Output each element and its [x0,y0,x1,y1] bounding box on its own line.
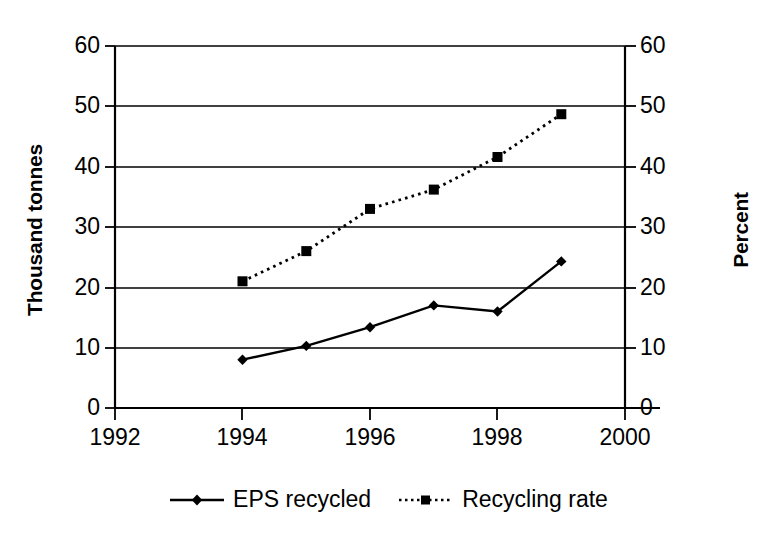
legend-label-recycling-rate: Recycling rate [462,486,608,513]
data-point [493,152,503,162]
data-point [429,300,439,310]
data-point [238,276,248,286]
chart-container: Thousand tonnes Percent 0 10 20 30 40 50… [0,0,776,550]
y-axis-left-tickmarks [105,46,115,408]
gridlines [115,46,625,348]
plot-area [0,0,776,550]
data-point [301,341,311,351]
data-point [365,204,375,214]
y-axis-right-tickmarks [625,46,636,408]
data-point [301,246,311,256]
legend-swatch-eps-recycled [168,491,226,509]
series-line [243,114,562,281]
data-point [556,109,566,119]
series-line [243,261,562,359]
data-point [429,185,439,195]
series-recycling-rate [238,109,567,286]
data-point [237,355,247,365]
legend-item-recycling-rate[interactable]: Recycling rate [397,486,608,513]
chart-legend: EPS recycled Recycling rate [0,486,776,513]
legend-label-eps-recycled: EPS recycled [233,486,371,513]
legend-item-eps-recycled[interactable]: EPS recycled [168,486,371,513]
x-axis-tickmarks [115,408,625,420]
data-point [365,322,375,332]
legend-swatch-recycling-rate [397,491,455,509]
data-series-layer [237,109,566,365]
